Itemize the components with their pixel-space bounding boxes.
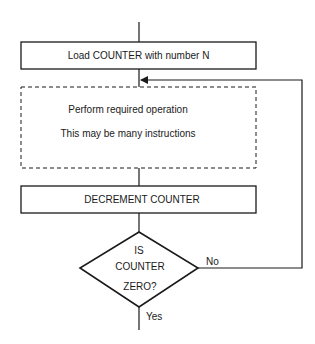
decision-node: IS COUNTER ZERO?	[80, 232, 198, 307]
operation-label-line1: Perform required operation	[68, 104, 188, 115]
load-counter-label: Load COUNTER with number N	[68, 50, 210, 61]
decision-label-line2: COUNTER	[115, 261, 164, 272]
no-branch-label: No	[206, 256, 219, 267]
load-counter-node: Load COUNTER with number N	[21, 42, 256, 69]
yes-branch-label: Yes	[146, 311, 162, 322]
flowchart-canvas: Load COUNTER with number N Perform requi…	[0, 0, 315, 344]
decision-label-line1: IS	[134, 245, 144, 256]
decrement-counter-node: DECREMENT COUNTER	[21, 186, 256, 213]
decrement-counter-label: DECREMENT COUNTER	[84, 194, 199, 205]
operation-label-line2: This may be many instructions	[60, 128, 195, 139]
decision-label-line3: ZERO?	[123, 281, 157, 292]
operation-node: Perform required operation This may be m…	[21, 87, 256, 168]
